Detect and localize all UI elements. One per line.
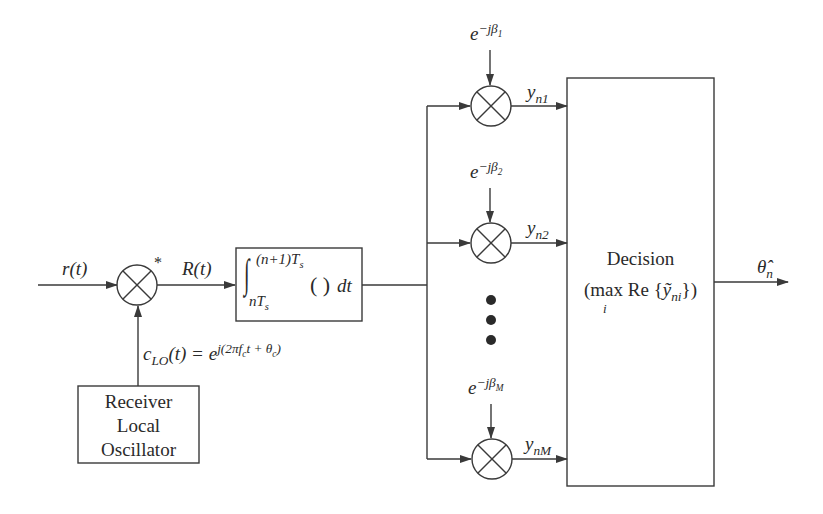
- differential: dt: [337, 276, 352, 295]
- phase-label-1: e−jβ1: [470, 22, 502, 43]
- integral-upper-limit: (n+1)Ts: [256, 252, 304, 271]
- decision-rule: (max Re {ỹni}): [567, 278, 714, 309]
- mixed-signal-label: R(t): [182, 259, 212, 278]
- output-label-m: ynM: [525, 434, 551, 457]
- decision-rule-index: i: [603, 302, 607, 315]
- phase-label-m: e−jβM: [468, 376, 503, 397]
- output-label-1: yn1: [527, 82, 549, 105]
- decision-title: Decision: [567, 247, 714, 271]
- output-symbol: θ̂n: [757, 257, 773, 280]
- output-label-2: yn2: [527, 218, 549, 241]
- mixer-main: [117, 265, 157, 305]
- lo-box-label: Receiver Local Oscillator: [78, 390, 199, 462]
- input-signal-label: r(t): [62, 259, 87, 278]
- ellipsis-dots: [486, 295, 496, 345]
- integral-lower-limit: nTs: [249, 294, 269, 313]
- integral-sign: ∫: [244, 254, 249, 294]
- lo-expression: cLO(t) = ej(2πfct + θc): [143, 342, 281, 367]
- conjugate-mark: *: [154, 255, 162, 271]
- phase-label-2: e−jβ2: [470, 160, 502, 181]
- integrand: ( ): [310, 274, 330, 296]
